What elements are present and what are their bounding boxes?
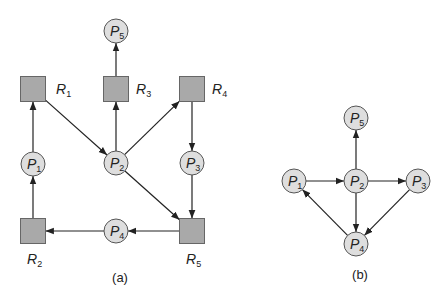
resource-square [180,77,205,102]
resource-label: R5 [186,251,201,269]
edge-b-P3-to-P4 [364,190,409,236]
resource-square [104,77,129,102]
resource-square [21,219,46,244]
node-b-p2: P2 [344,169,368,193]
resource-label: R2 [27,251,42,269]
resource-label: R3 [136,81,151,99]
node-a-r2: R2 [21,219,46,270]
caption-a: (a) [112,270,128,285]
node-a-p2: P2 [104,151,128,175]
node-b-p5: P5 [344,106,368,130]
edges-layer [33,43,410,235]
resource-label: R1 [56,81,71,99]
resource-label: R4 [212,81,227,99]
node-a-p4: P4 [104,219,128,243]
resource-square [21,77,46,102]
node-a-p1: P1 [21,152,45,176]
resource-square [180,219,205,244]
edge-a-R1-to-P2 [46,100,108,155]
node-b-p1: P1 [282,169,306,193]
node-a-p5: P5 [104,19,128,43]
diagram-canvas: P5R1R3R4P1P2P3R2P4R5P5P1P2P3P4 (a)(b) [0,0,447,295]
edge-b-P4-to-P1 [302,190,347,236]
node-b-p4: P4 [344,232,368,256]
node-a-r4: R4 [180,77,228,102]
node-b-p3: P3 [406,169,430,193]
captions-layer: (a)(b) [112,267,368,285]
caption-b: (b) [352,267,368,282]
node-a-r3: R3 [104,77,152,102]
node-a-r1: R1 [21,77,72,102]
edge-a-P2-to-R4 [125,101,180,154]
node-a-r5: R5 [180,219,205,270]
node-a-p3: P3 [180,151,204,175]
edge-a-P2-to-R5 [125,171,180,220]
